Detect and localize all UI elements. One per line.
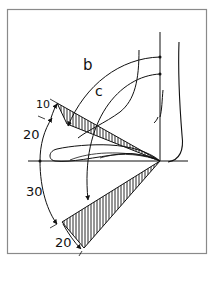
tick-upper-10 xyxy=(50,99,57,103)
label-lower-30: 30 xyxy=(26,185,43,198)
arc-origin-point xyxy=(39,160,42,163)
label-upper-10: 10 xyxy=(36,99,50,110)
tick-upper-20 xyxy=(38,116,45,119)
label-lower-20: 20 xyxy=(55,236,72,249)
label-c: c xyxy=(95,84,103,98)
plantarflexion-hatched-wedge xyxy=(62,161,160,248)
dorsiflexion-hatched-wedge xyxy=(57,103,160,161)
leg-outline-back xyxy=(168,42,182,162)
tick-lower-30 xyxy=(50,224,57,228)
arc-b-point xyxy=(159,56,162,59)
label-b: b xyxy=(83,58,93,73)
label-upper-20: 20 xyxy=(23,128,40,141)
leg-outline-front-2 xyxy=(154,117,158,123)
arc-10 xyxy=(51,104,57,118)
foot-motion-diagram: b c 10 20 30 20 xyxy=(0,0,218,282)
arc-c-point xyxy=(159,73,162,76)
arc-plantarflexion-30 xyxy=(40,161,57,224)
